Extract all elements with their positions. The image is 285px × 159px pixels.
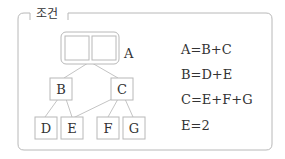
equation-1: A=B+C bbox=[180, 42, 232, 57]
panel-title: 조건 bbox=[36, 7, 58, 21]
node-a-label: A bbox=[123, 46, 134, 61]
equation-list: A=B+C B=D+E C=E+F+G E=2 bbox=[180, 42, 253, 133]
node-a: A bbox=[61, 32, 134, 64]
node-a-slot-1 bbox=[65, 36, 89, 60]
node-b-label: B bbox=[56, 82, 66, 97]
node-e: E bbox=[61, 117, 83, 139]
node-a-slot-2 bbox=[92, 36, 116, 60]
equation-4: E=2 bbox=[181, 118, 210, 133]
node-c: C bbox=[111, 78, 133, 100]
node-e-label: E bbox=[67, 121, 77, 136]
node-d-label: D bbox=[41, 121, 51, 136]
node-d: D bbox=[35, 117, 57, 139]
equation-3: C=E+F+G bbox=[181, 92, 253, 107]
node-b: B bbox=[50, 78, 72, 100]
condition-panel: 조건 A B C D E F G bbox=[0, 0, 285, 159]
node-g: G bbox=[123, 117, 145, 139]
equation-2: B=D+E bbox=[181, 67, 232, 82]
node-f: F bbox=[97, 117, 119, 139]
node-g-label: G bbox=[129, 121, 139, 136]
node-f-label: F bbox=[103, 121, 112, 136]
node-c-label: C bbox=[117, 82, 127, 97]
